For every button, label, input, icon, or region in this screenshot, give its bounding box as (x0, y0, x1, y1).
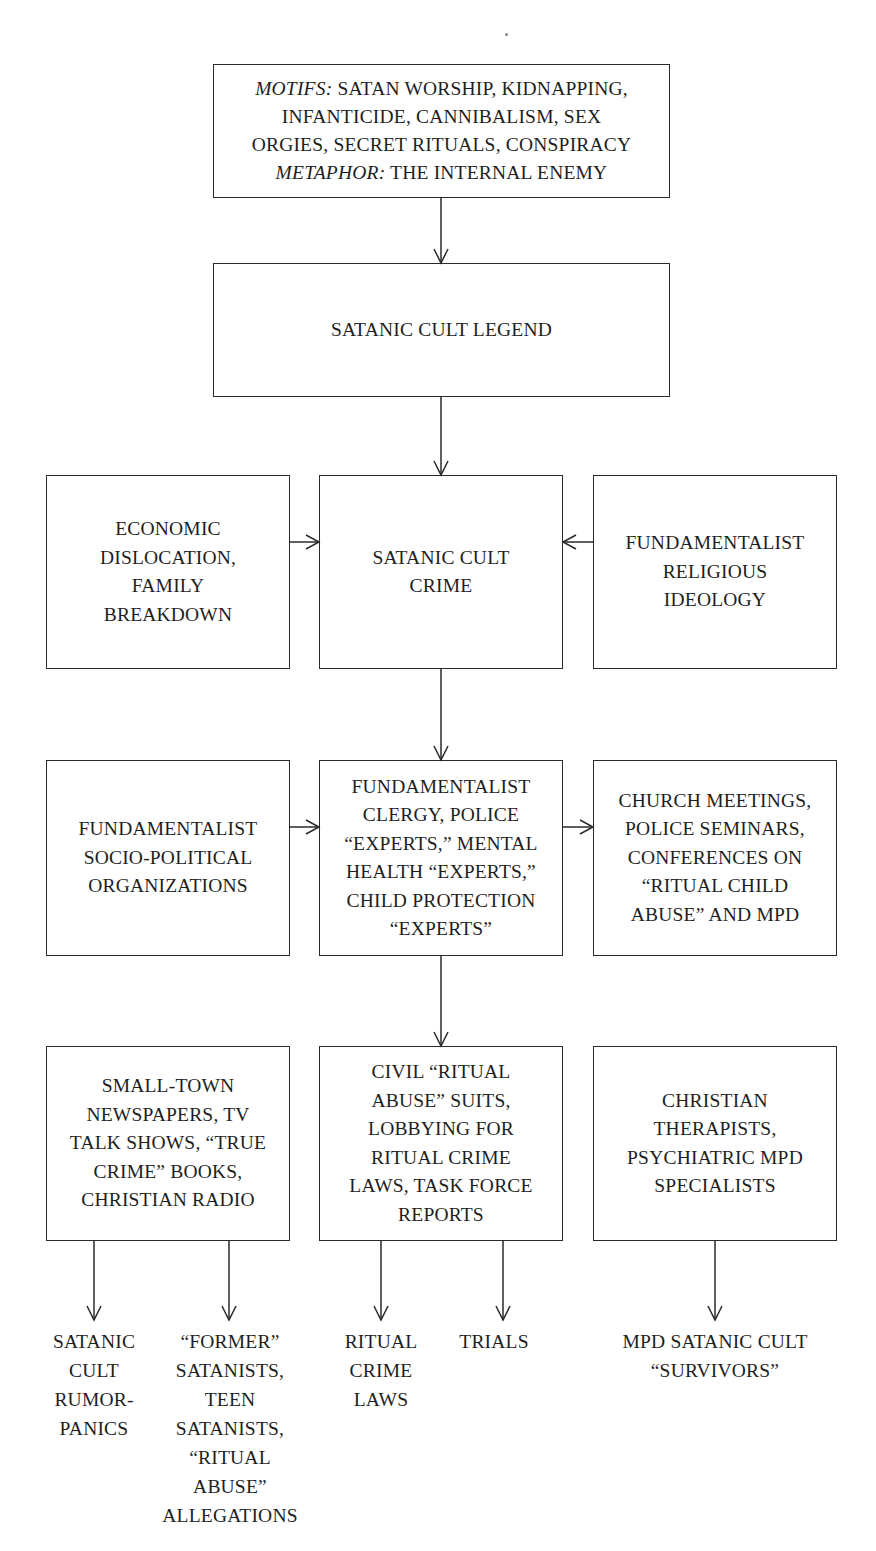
outcome-former-satanists: “FORMER” SATANISTS, TEEN SATANISTS, “RIT… (149, 1327, 311, 1530)
satanic-cult-crime-box: SATANIC CULT CRIME (319, 475, 563, 669)
row4-left-text: SMALL-TOWN NEWSPAPERS, TV TALK SHOWS, “T… (70, 1072, 266, 1215)
row3-left-text: FUNDAMENTALIST SOCIO-POLITICAL ORGANIZAT… (79, 815, 258, 901)
motifs-line-1: SATAN WORSHIP, KIDNAPPING, (332, 78, 627, 99)
economic-dislocation-box: ECONOMIC DISLOCATION, FAMILY BREAKDOWN (46, 475, 290, 669)
row2-right-text: FUNDAMENTALIST RELIGIOUS IDEOLOGY (626, 529, 805, 615)
motifs-line-3: ORGIES, SECRET RITUALS, CONSPIRACY (252, 131, 632, 159)
outcome-mpd-survivors: MPD SATANIC CULT “SURVIVORS” (600, 1327, 830, 1385)
row2-left-text: ECONOMIC DISLOCATION, FAMILY BREAKDOWN (100, 515, 236, 629)
row4-center-text: CIVIL “RITUAL ABUSE” SUITS, LOBBYING FOR… (349, 1058, 532, 1229)
outcome-trials: TRIALS (444, 1327, 544, 1356)
fundamentalist-religious-ideology-box: FUNDAMENTALIST RELIGIOUS IDEOLOGY (593, 475, 837, 669)
experts-box: FUNDAMENTALIST CLERGY, POLICE “EXPERTS,”… (319, 760, 563, 956)
motifs-content: MOTIFS: SATAN WORSHIP, KIDNAPPING, INFAN… (252, 75, 632, 187)
socio-political-organizations-box: FUNDAMENTALIST SOCIO-POLITICAL ORGANIZAT… (46, 760, 290, 956)
metaphor-text: THE INTERNAL ENEMY (385, 162, 607, 183)
satanic-cult-legend-box: SATANIC CULT LEGEND (213, 263, 670, 397)
row2-center-text: SATANIC CULT CRIME (372, 544, 509, 601)
motifs-line-2: INFANTICIDE, CANNIBALISM, SEX (252, 103, 632, 131)
row4-right-text: CHRISTIAN THERAPISTS, PSYCHIATRIC MPD SP… (627, 1087, 803, 1201)
motifs-label: MOTIFS: (255, 78, 332, 99)
outcome-rumor-panics: SATANIC CULT RUMOR- PANICS (34, 1327, 154, 1443)
legend-text: SATANIC CULT LEGEND (331, 316, 552, 345)
speck-mark (505, 33, 508, 36)
metaphor-label: METAPHOR: (276, 162, 386, 183)
church-meetings-box: CHURCH MEETINGS, POLICE SEMINARS, CONFER… (593, 760, 837, 956)
christian-therapists-box: CHRISTIAN THERAPISTS, PSYCHIATRIC MPD SP… (593, 1046, 837, 1241)
outcome-ritual-crime-laws: RITUAL CRIME LAWS (326, 1327, 436, 1414)
media-box: SMALL-TOWN NEWSPAPERS, TV TALK SHOWS, “T… (46, 1046, 290, 1241)
row3-center-text: FUNDAMENTALIST CLERGY, POLICE “EXPERTS,”… (344, 773, 537, 944)
civil-suits-box: CIVIL “RITUAL ABUSE” SUITS, LOBBYING FOR… (319, 1046, 563, 1241)
row3-right-text: CHURCH MEETINGS, POLICE SEMINARS, CONFER… (619, 787, 812, 930)
motifs-box: MOTIFS: SATAN WORSHIP, KIDNAPPING, INFAN… (213, 64, 670, 198)
